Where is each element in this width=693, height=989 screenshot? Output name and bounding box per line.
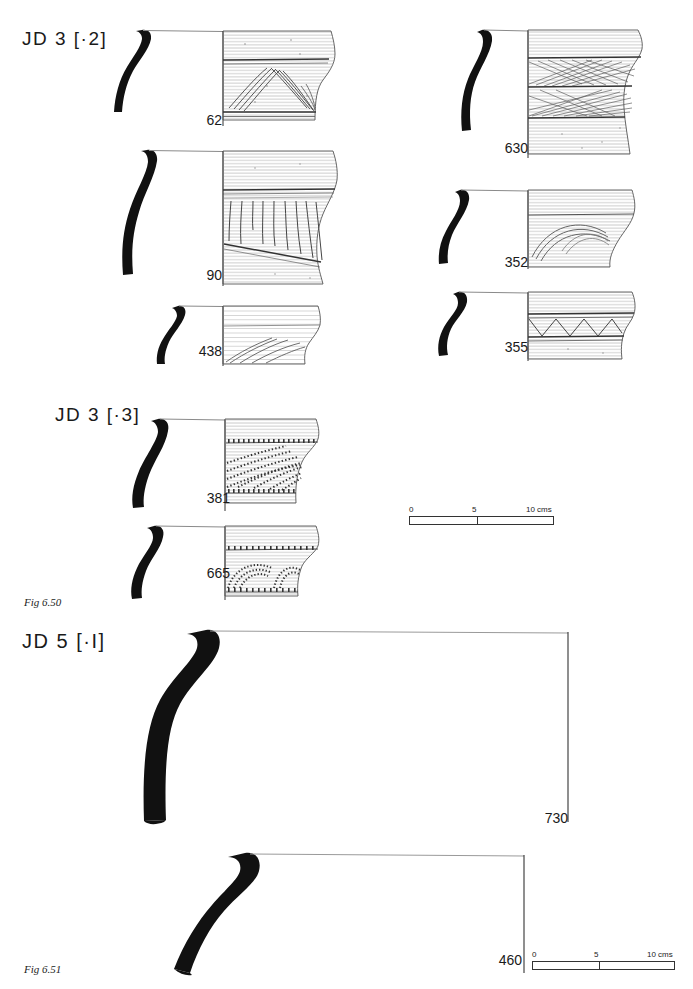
- scale-tick-10: 10 cms: [647, 950, 673, 959]
- vessel-exterior-outline: [528, 292, 635, 359]
- vessel-number-90: 90: [178, 267, 222, 283]
- vessel-section-profile: [132, 419, 168, 508]
- figure-caption-650: Fig 6.50: [24, 596, 61, 608]
- pottery-illustration-plate: JD 3 [·2] JD 3 [·3] JD 5 [·I]: [0, 0, 693, 989]
- scale-bar-fig-650: 0 5 10 cms: [409, 505, 561, 525]
- figure-caption-651: Fig 6.51: [24, 963, 61, 975]
- vessel-drawing-90: [105, 146, 355, 292]
- vessel-drawing-352: [428, 185, 658, 275]
- vessel-exterior-outline: [223, 306, 320, 364]
- vessel-exterior-outline: [223, 31, 335, 120]
- scale-tick-0: 0: [532, 950, 536, 959]
- scale-tick-5: 5: [472, 505, 476, 514]
- vessel-section-profile: [114, 30, 151, 112]
- vessel-section-profile: [439, 190, 469, 264]
- vessel-number-381: 381: [186, 490, 230, 506]
- vessel-section-profile: [144, 630, 220, 821]
- vessel-section-profile: [122, 150, 157, 275]
- vessel-section-profile: [131, 526, 163, 599]
- vessel-number-665: 665: [186, 565, 230, 581]
- vessel-section-profile: [461, 30, 492, 131]
- vessel-number-438: 438: [178, 343, 222, 359]
- vessel-number-355: 355: [484, 339, 528, 355]
- vessel-drawing-438: [148, 300, 348, 372]
- vessel-number-730: 730: [524, 810, 568, 826]
- vessel-exterior-outline: [225, 526, 319, 596]
- vessel-section-profile: [174, 853, 260, 973]
- scale-tick-10: 10 cms: [526, 505, 552, 514]
- scale-bar-fig-651: 0 5 10 cms: [532, 950, 684, 970]
- vessel-drawing-665: [118, 522, 348, 604]
- vessel-number-62: 62: [178, 112, 222, 128]
- section-heading-jd5-1: JD 5 [·I]: [22, 630, 106, 653]
- vessel-exterior-outline: [223, 151, 337, 284]
- vessel-number-460: 460: [478, 952, 522, 968]
- scale-tick-0: 0: [409, 505, 413, 514]
- vessel-number-352: 352: [484, 254, 528, 270]
- scale-tick-5: 5: [594, 950, 598, 959]
- vessel-drawing-355: [428, 287, 658, 367]
- vessel-drawing-730: [130, 622, 580, 837]
- vessel-section-profile: [438, 292, 467, 356]
- vessel-number-630: 630: [484, 140, 528, 156]
- vessel-drawing-381: [118, 415, 348, 515]
